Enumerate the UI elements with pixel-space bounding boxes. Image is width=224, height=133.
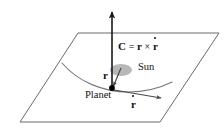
- sun-body: [110, 64, 132, 76]
- orbital-angular-momentum-diagram: C = r × r Sun Planet r r: [0, 0, 224, 133]
- sun-label: Sun: [138, 62, 154, 73]
- position-vector-label: r: [103, 70, 108, 81]
- diagram-canvas: [0, 0, 224, 133]
- overdot-icon: [154, 37, 156, 39]
- equation-rdot: r: [153, 41, 158, 52]
- velocity-rdot-glyph: r: [131, 99, 136, 110]
- velocity-vector-label: r: [131, 99, 136, 110]
- overdot-icon: [132, 95, 134, 97]
- equation-lhs: C: [118, 40, 126, 52]
- equation-label: C = r × r: [118, 41, 158, 52]
- planet-label: Planet: [85, 90, 111, 101]
